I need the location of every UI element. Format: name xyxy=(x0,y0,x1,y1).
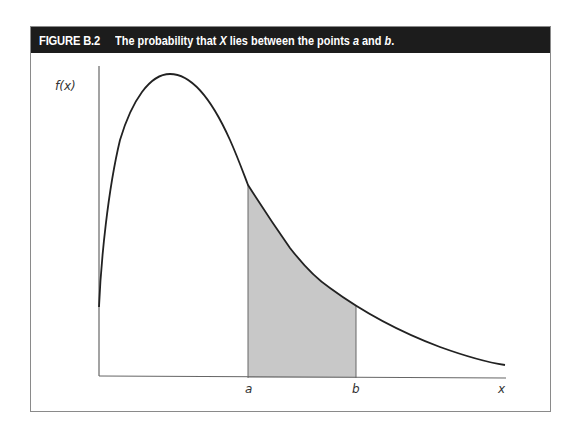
shaded-probability-area xyxy=(248,185,356,378)
x-tick-a: a xyxy=(245,382,252,396)
x-axis-label: x xyxy=(497,382,506,396)
y-axis-label: f(x) xyxy=(55,79,76,93)
density-plot: f(x) a b x xyxy=(0,0,579,440)
x-tick-b: b xyxy=(352,382,360,396)
